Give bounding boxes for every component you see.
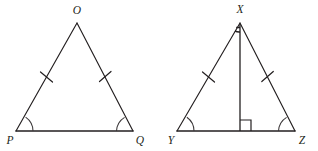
triangle-opq-right-leg-tick: [100, 72, 112, 82]
geometry-figure: O P Q: [0, 0, 318, 151]
triangle-opq-angle-arc-q: [117, 117, 125, 131]
triangle-xyz: X Y Z: [168, 3, 306, 146]
vertex-label-o: O: [73, 4, 82, 16]
triangle-xyz-right-leg-tick: [262, 72, 274, 82]
triangle-xyz-angle-arc-z: [279, 117, 287, 131]
vertex-label-p: P: [5, 134, 13, 146]
vertex-label-x: X: [235, 3, 244, 15]
triangle-opq-left-leg-tick: [41, 72, 53, 82]
diagram-canvas: O P Q: [0, 0, 318, 151]
vertex-label-q: Q: [136, 134, 145, 146]
triangle-xyz-right-angle-square: [240, 120, 251, 131]
triangle-xyz-left-leg-tick: [203, 72, 215, 82]
triangle-opq: O P Q: [5, 4, 144, 146]
vertex-label-z: Z: [299, 134, 306, 146]
triangle-xyz-apex-angle-mark: [235, 31, 240, 32]
vertex-label-y: Y: [168, 134, 176, 146]
triangle-xyz-angle-arc-y: [187, 117, 194, 131]
triangle-opq-angle-arc-p: [26, 117, 33, 131]
